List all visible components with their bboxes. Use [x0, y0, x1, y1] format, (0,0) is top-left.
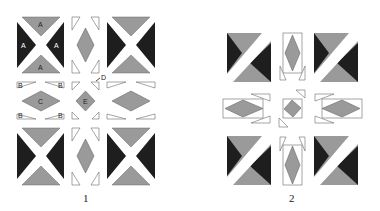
label-a-left: A	[21, 42, 26, 49]
pointer-d	[96, 78, 100, 81]
figure-1: A A A A B B C B B	[17, 17, 155, 204]
label-b-4: B	[58, 112, 63, 119]
label-b-1: B	[18, 82, 23, 89]
strip-bottom-center-2	[280, 137, 305, 185]
x-tile-top-right	[107, 17, 155, 73]
label-a-bottom: A	[38, 64, 43, 71]
strip-middle-center-2	[279, 90, 305, 127]
strip-middle-right-2	[315, 94, 362, 123]
figure-1-caption: 1	[83, 192, 89, 204]
label-b-2: B	[58, 82, 63, 89]
figure-2-caption: 2	[289, 192, 295, 204]
label-c: C	[38, 98, 43, 105]
diag-tile-bottom-left	[227, 136, 271, 185]
label-a-right: A	[54, 42, 59, 49]
strip-top-center	[72, 17, 99, 73]
strip-middle-right	[107, 82, 155, 119]
diag-tile-top-right	[314, 33, 358, 82]
diagram-canvas: A A A A B B C B B	[0, 0, 380, 211]
label-a-top: A	[38, 21, 43, 28]
strip-middle-left-2	[223, 94, 270, 123]
diag-tile-top-left	[227, 33, 271, 82]
label-e: E	[83, 98, 88, 105]
strip-top-center-2	[280, 33, 305, 80]
label-b-3: B	[18, 112, 23, 119]
strip-bottom-center	[72, 128, 99, 185]
label-d: D	[101, 74, 106, 81]
x-tile-bottom-right	[107, 128, 155, 185]
figure-2: 2	[223, 33, 362, 204]
x-tile-bottom-left	[17, 128, 64, 185]
diag-tile-bottom-right	[314, 136, 358, 185]
